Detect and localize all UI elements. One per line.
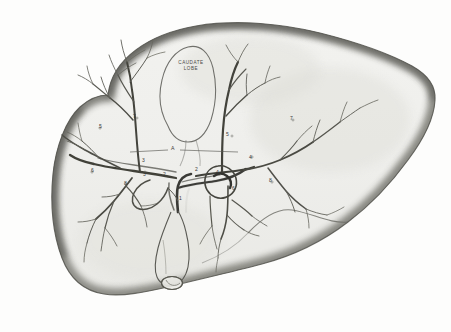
label-a: A	[171, 146, 175, 151]
caudate-lobe-label: CAUDATE LOBE	[163, 60, 219, 72]
anatomical-figure: CAUDATE LOBE A 1 2 2 3 3 4 4 5 5 6 6 7 7…	[0, 0, 451, 332]
label-3b: 3	[143, 172, 146, 177]
label-5-left: 5	[99, 124, 102, 129]
label-7-left: 7	[133, 114, 136, 119]
label-4: 4	[216, 170, 219, 175]
label-5-right: 5	[226, 132, 229, 137]
label-2b: 2	[195, 167, 198, 172]
liver-silhouette	[52, 23, 435, 295]
label-3: 3	[142, 158, 145, 163]
label-4b: 4	[249, 155, 252, 160]
label-2: 2	[163, 172, 166, 177]
label-6-left: 6	[91, 168, 94, 173]
label-1: 1	[179, 196, 182, 201]
liver-illustration-svg	[0, 0, 451, 332]
label-7-right: 7	[290, 116, 293, 121]
label-6-right: 6	[232, 186, 235, 191]
caudate-lobe-label-line2: LOBE	[163, 66, 219, 72]
label-8-left: 8	[124, 181, 127, 186]
label-8-right: 8	[269, 178, 272, 183]
